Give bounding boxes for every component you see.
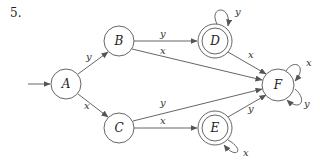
edge-label-B-F: x — [160, 45, 166, 56]
edge-A-B — [78, 52, 108, 74]
svg-text:F: F — [273, 78, 283, 92]
edge-label-C-E: x — [160, 115, 166, 126]
state-diagram: 5. y x y x y x x y y x x y A B C D — [0, 0, 320, 160]
svg-text:C: C — [114, 121, 123, 135]
state-F: F — [262, 69, 294, 101]
edge-C-F — [133, 89, 262, 121]
edge-label-F-F-y: y — [303, 98, 310, 109]
edge-label-E-E: x — [243, 147, 249, 158]
svg-text:D: D — [209, 34, 220, 48]
edge-D-F — [228, 52, 266, 74]
self-loop-E — [224, 140, 238, 153]
edge-label-F-F-x: x — [306, 57, 312, 68]
edge-label-B-D: y — [159, 28, 166, 39]
edge-label-A-C: x — [84, 100, 90, 111]
state-D-accepting: D — [198, 24, 232, 58]
state-E-accepting: E — [198, 111, 232, 145]
edge-A-C — [78, 94, 108, 117]
self-loop-D — [215, 10, 228, 26]
state-B: B — [104, 26, 134, 56]
problem-number: 5. — [10, 6, 21, 20]
edge-E-F — [228, 95, 266, 117]
svg-text:B: B — [114, 34, 124, 48]
edge-label-D-F: x — [248, 49, 254, 60]
edge-label-C-F: y — [159, 97, 166, 108]
svg-text:E: E — [210, 121, 220, 135]
edge-label-A-B: y — [85, 51, 92, 62]
state-A: A — [51, 69, 81, 99]
svg-text:A: A — [61, 77, 71, 91]
edge-B-F — [132, 49, 262, 80]
edge-label-E-F: y — [247, 103, 254, 114]
state-C: C — [104, 113, 134, 143]
edge-label-D-D: y — [234, 6, 241, 17]
